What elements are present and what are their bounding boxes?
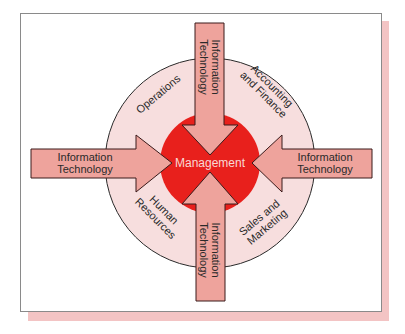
label-line: Information	[285, 151, 365, 163]
label-line: Technology	[45, 163, 125, 175]
label-line: Technology	[198, 29, 210, 105]
label-line: Technology	[198, 212, 210, 288]
arrow-top-label: Information Technology	[198, 29, 222, 105]
label-line: Information	[210, 212, 222, 288]
management-label: Management	[170, 156, 250, 170]
arrow-bottom-label: Information Technology	[198, 212, 222, 288]
arrow-right-label: Information Technology	[285, 151, 365, 175]
label-line: Information	[210, 29, 222, 105]
label-line: Information	[45, 151, 125, 163]
label-line: Technology	[285, 163, 365, 175]
arrow-left-label: Information Technology	[45, 151, 125, 175]
